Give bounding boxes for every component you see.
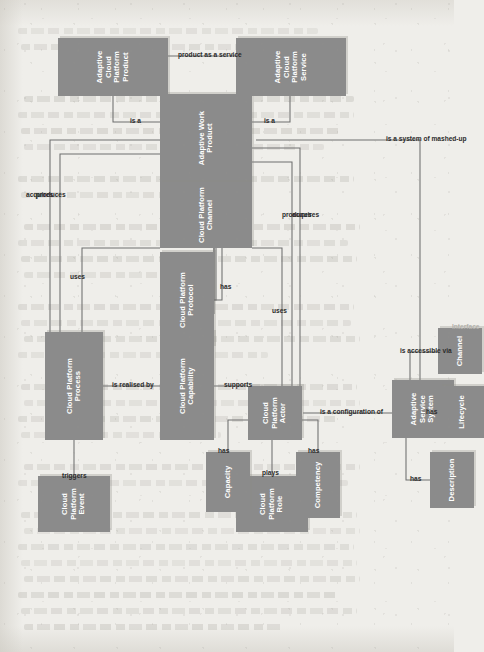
node-competency[interactable]: Competency (296, 452, 340, 518)
edge-label-has-capacity: has (218, 448, 229, 455)
node-label-line: Capacity (224, 466, 233, 498)
node-adaptive-cloud-platform-product[interactable]: Adaptive Cloud Platform Product (58, 38, 168, 96)
node-label-line: Actor (279, 397, 288, 429)
edge-label-is-a-product: is a (130, 118, 141, 125)
edge-label-has-lifecycle: has (426, 409, 437, 416)
node-label-line: Process (74, 358, 83, 414)
node-label-line: Platform Service (291, 40, 308, 94)
node-description[interactable]: Description (430, 452, 474, 508)
node-label-line: Product (206, 111, 215, 165)
node-label-line: Capability (187, 358, 196, 414)
edge-label-uses-actor: uses (272, 308, 287, 315)
edge-label-acquires-process: acquires (26, 192, 53, 199)
edge-label-interface-service-channel: Interface (452, 324, 480, 331)
node-label-line: Description (448, 459, 457, 502)
edge-label-plays: plays (262, 470, 279, 477)
edge-label-is-a-configuration-of: is a configuration of (320, 409, 383, 416)
edge-label-has-channel-protocol: has (220, 284, 231, 291)
node-cloud-platform-capability[interactable]: Cloud Platform Capability (160, 332, 214, 440)
node-capacity[interactable]: Capacity (206, 452, 250, 512)
node-label-line: Channel (206, 187, 215, 243)
node-cloud-platform-event[interactable]: Cloud Platform Event (38, 476, 110, 532)
node-label-line: Platform Product (113, 40, 130, 94)
node-label-line: Competency (314, 462, 323, 509)
edge-label-supports: supports (224, 382, 252, 389)
node-cloud-platform-protocol[interactable]: Cloud Platform Protocol (160, 252, 214, 348)
node-label-line: Adaptive Cloud (96, 40, 113, 94)
node-label-line: Adaptive Cloud (274, 40, 291, 94)
edge-label-is-a-system-of-mashed-up: is a system of mashed-up (386, 136, 467, 143)
edge-label-product-as-a-service: product as a service (178, 52, 242, 59)
edge-label-has-competency: has (308, 448, 319, 455)
node-label-line: Event (78, 488, 87, 520)
node-label-line: Lifecycle (458, 395, 467, 428)
node-adaptive-cloud-platform-service[interactable]: Adaptive Cloud Platform Service (236, 38, 346, 96)
edge-label-is-a-service: is a (264, 118, 275, 125)
edge-label-has-description: has (410, 476, 421, 483)
node-lifecycle[interactable]: Lifecycle (440, 386, 484, 438)
node-cloud-platform-actor[interactable]: Cloud Platform Actor (248, 386, 302, 440)
node-adaptive-work-product[interactable]: Adaptive Work Product (160, 94, 252, 182)
edge-label-uses-process: uses (70, 274, 85, 281)
edge-label-triggers: triggers (62, 473, 87, 480)
node-label-line: Protocol (187, 272, 196, 328)
node-label-line: Role (276, 488, 285, 520)
node-label-line: Channel (456, 336, 465, 367)
node-cloud-platform-process[interactable]: Cloud Platform Process (45, 332, 103, 440)
edge-label-is-accessible-via-channel: is accessible via (400, 348, 452, 355)
node-cloud-platform-channel[interactable]: Cloud PlatformChannel (160, 182, 252, 248)
edge-label-is-realised-by: is realised by (112, 382, 154, 389)
edge-label-acquires-actor: acquires (292, 212, 319, 219)
